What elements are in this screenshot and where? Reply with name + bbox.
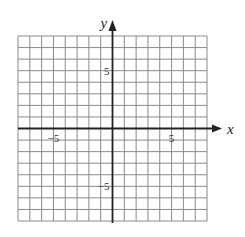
axes	[18, 20, 222, 223]
y-tick-label: 5	[104, 65, 110, 77]
y-tick-label: −5	[98, 180, 110, 192]
coordinate-plane: x y −555−5	[0, 0, 245, 237]
x-tick-label: 5	[169, 132, 175, 144]
y-axis-label: y	[99, 15, 108, 31]
y-axis-arrow-icon	[109, 20, 117, 31]
x-axis-label: x	[226, 121, 234, 137]
x-axis-arrow-icon	[212, 125, 222, 133]
x-tick-label: −5	[48, 132, 60, 144]
